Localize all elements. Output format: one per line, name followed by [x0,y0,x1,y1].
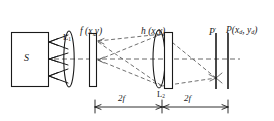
plane-prime-label: P′ [209,27,216,37]
ray-cross-b [98,60,162,86]
output-planes-group [216,33,228,89]
object-plane-rect [90,34,97,87]
dimension-span1-label: 2f [118,94,125,103]
figure-canvas: S L1 f (x,y) h (x,y) P′ P(xd, yd) L2 2f … [0,0,274,121]
lens-l1-label: L1 [63,33,71,43]
arrowhead-plane-prime-lower [216,73,222,83]
lens-l2 [153,30,165,88]
filter-plane-label: h (x,y) [141,27,165,37]
lens-l2-label: L2 [157,90,165,100]
optical-diagram-svg [0,0,274,121]
arrowhead-object-top [98,39,104,45]
source-box-group [12,33,49,87]
filter-plane-group [165,33,173,89]
ray-cross-a [98,34,162,60]
dimension-lines-group [95,100,228,113]
lens-l2-group [153,30,165,88]
object-plane-label: f (x,y) [80,27,102,37]
dimension-span2-label: 2f [184,94,191,103]
arrowhead-object-mid [98,57,104,63]
arrowhead-plane-prime-upper [209,75,216,82]
filter-plane-rect [165,33,173,89]
detector-plane-label: P(xd, yd) [226,26,257,36]
object-plane-group [90,34,97,87]
source-label: S [24,53,29,63]
source-box [12,33,49,87]
